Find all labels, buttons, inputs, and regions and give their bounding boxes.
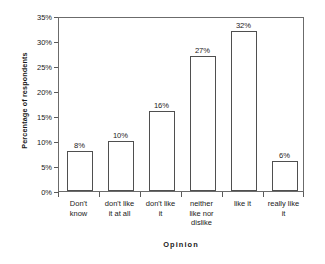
x-axis-tick-label-line: don't like xyxy=(99,199,140,209)
x-axis-tick-label: don't likeit xyxy=(140,199,181,218)
x-axis-tick-label-line: really like xyxy=(263,199,304,209)
plot-area: 8%10%16%27%32%6% xyxy=(58,17,304,192)
y-axis-tick-labels: 0%5%10%15%20%25%30%35% xyxy=(26,17,52,192)
y-axis-tick-mark xyxy=(54,42,58,43)
x-axis-tick-label-line: like nor xyxy=(181,209,222,219)
x-axis-tick-label-line: don't like xyxy=(140,199,181,209)
bar-slot: 32% xyxy=(223,18,264,191)
x-axis-tick-label-line: know xyxy=(58,209,99,219)
x-axis-tick-labels: Don'tknowdon't likeit at alldon't likeit… xyxy=(58,199,304,241)
x-axis-tick-label-line: dislike xyxy=(181,218,222,228)
y-axis-tick-label: 25% xyxy=(26,63,52,72)
y-axis-tick-label: 15% xyxy=(26,113,52,122)
bar-slot: 6% xyxy=(264,18,305,191)
x-axis-tick-label: like it xyxy=(222,199,263,209)
x-axis-tick-mark xyxy=(58,192,59,197)
y-axis-tick-mark xyxy=(54,92,58,93)
x-axis-tick-label: Don'tknow xyxy=(58,199,99,218)
x-axis-tick-label-line: it xyxy=(140,209,181,219)
bar-slot: 10% xyxy=(100,18,141,191)
x-axis-tick-mark xyxy=(140,192,141,197)
y-axis-tick-mark xyxy=(54,17,58,18)
y-axis-tick-label: 10% xyxy=(26,138,52,147)
bar-slot: 8% xyxy=(59,18,100,191)
bar-value-label: 16% xyxy=(154,101,169,110)
bar[interactable] xyxy=(231,31,257,191)
bar-value-label: 27% xyxy=(195,46,210,55)
y-axis-tick-label: 30% xyxy=(26,38,52,47)
x-axis-tick-label: really likeit xyxy=(263,199,304,218)
x-axis-tick-label-line: neither xyxy=(181,199,222,209)
x-axis-tick-mark xyxy=(222,192,223,197)
bar-value-label: 6% xyxy=(279,151,290,160)
x-axis-tick-mark xyxy=(263,192,264,197)
y-axis-tick-label: 5% xyxy=(26,163,52,172)
x-axis-tick-label-line: Don't xyxy=(58,199,99,209)
bar-slot: 16% xyxy=(141,18,182,191)
y-axis-tick-label: 35% xyxy=(26,13,52,22)
y-axis-tick-mark xyxy=(54,192,58,193)
bar[interactable] xyxy=(67,151,93,191)
y-axis-tick-mark xyxy=(54,167,58,168)
bar-series: 8%10%16%27%32%6% xyxy=(59,18,303,191)
x-axis-tick-label-line: like it xyxy=(222,199,263,209)
bar[interactable] xyxy=(190,56,216,191)
y-axis-tick-mark xyxy=(54,142,58,143)
bar-value-label: 32% xyxy=(236,21,251,30)
bar[interactable] xyxy=(149,111,175,191)
x-axis-title: Opinion xyxy=(58,240,304,249)
x-axis-tick-label-line: it xyxy=(263,209,304,219)
bar-value-label: 8% xyxy=(74,141,85,150)
x-axis-tick-label: neitherlike nordislike xyxy=(181,199,222,228)
x-axis-tick-label: don't likeit at all xyxy=(99,199,140,218)
bar-value-label: 10% xyxy=(113,131,128,140)
x-axis-tick-marks xyxy=(58,192,304,197)
y-axis-tick-mark xyxy=(54,67,58,68)
bar[interactable] xyxy=(108,141,134,191)
bar-slot: 27% xyxy=(182,18,223,191)
y-axis-tick-label: 20% xyxy=(26,88,52,97)
y-axis-tick-mark xyxy=(54,117,58,118)
y-axis-tick-label: 0% xyxy=(26,188,52,197)
bar[interactable] xyxy=(272,161,298,191)
x-axis-tick-mark xyxy=(99,192,100,197)
x-axis-tick-label-line: it at all xyxy=(99,209,140,219)
x-axis-tick-mark xyxy=(303,192,304,197)
x-axis-tick-mark xyxy=(181,192,182,197)
bar-chart: Percentage of respondents 0%5%10%15%20%2… xyxy=(0,0,325,264)
